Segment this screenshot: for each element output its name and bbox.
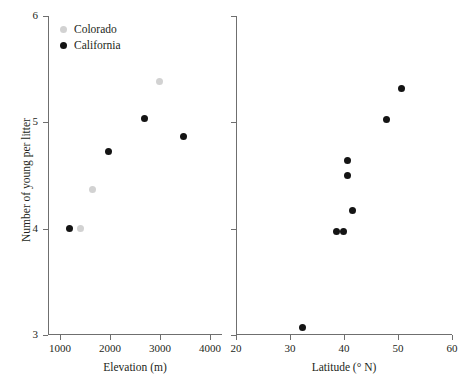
data-point-california bbox=[299, 324, 306, 331]
data-point-california bbox=[398, 85, 405, 92]
x-tick-mark bbox=[60, 335, 61, 340]
x-tick-label: 1000 bbox=[35, 343, 85, 354]
x-tick-mark bbox=[290, 335, 291, 340]
x-tick-label: 60 bbox=[427, 343, 473, 354]
figure-container: Number of young per litter 3456 10002000… bbox=[0, 0, 473, 386]
x-tick-mark bbox=[344, 335, 345, 340]
filled-circle-icon bbox=[60, 26, 67, 33]
latitude-panel: 2030405060 Latitude (° N) bbox=[236, 0, 473, 386]
elevation-panel: 3456 1000200030004000 Elevation (m) Colo… bbox=[0, 0, 236, 386]
latitude-x-axis-title: Latitude (° N) bbox=[236, 361, 452, 373]
x-tick-mark bbox=[452, 335, 453, 340]
legend-item-colorado[interactable]: Colorado bbox=[60, 20, 121, 36]
data-point-california bbox=[105, 148, 112, 155]
x-tick-mark bbox=[160, 335, 161, 340]
y-tick-label: 5 bbox=[8, 116, 38, 127]
x-tick-label: 40 bbox=[319, 343, 369, 354]
x-tick-label: 2000 bbox=[85, 343, 135, 354]
y-tick-mark bbox=[43, 229, 48, 230]
data-point-california bbox=[383, 116, 390, 123]
y-tick-mark bbox=[231, 122, 236, 123]
legend-label: California bbox=[74, 39, 121, 51]
elevation-plot-frame bbox=[48, 16, 222, 335]
data-point-colorado bbox=[77, 225, 84, 232]
data-point-california bbox=[344, 172, 351, 179]
filled-circle-icon bbox=[60, 42, 67, 49]
legend: ColoradoCalifornia bbox=[60, 20, 121, 52]
y-tick-label: 4 bbox=[8, 223, 38, 234]
y-tick-label: 3 bbox=[8, 329, 38, 340]
data-point-california bbox=[180, 133, 187, 140]
legend-label: Colorado bbox=[74, 23, 117, 35]
x-tick-label: 20 bbox=[211, 343, 261, 354]
y-tick-mark bbox=[231, 229, 236, 230]
y-tick-label: 6 bbox=[8, 10, 38, 21]
x-tick-mark bbox=[398, 335, 399, 340]
x-tick-label: 3000 bbox=[135, 343, 185, 354]
y-tick-mark bbox=[43, 16, 48, 17]
y-tick-mark bbox=[43, 335, 48, 336]
legend-item-california[interactable]: California bbox=[60, 36, 121, 52]
data-point-california bbox=[141, 115, 148, 122]
x-tick-label: 30 bbox=[265, 343, 315, 354]
elevation-x-axis-title: Elevation (m) bbox=[48, 361, 222, 373]
data-point-california bbox=[344, 157, 351, 164]
x-tick-label: 50 bbox=[373, 343, 423, 354]
y-tick-mark bbox=[231, 16, 236, 17]
data-point-colorado bbox=[89, 186, 96, 193]
x-tick-mark bbox=[236, 335, 237, 340]
x-tick-mark bbox=[110, 335, 111, 340]
y-tick-mark bbox=[43, 122, 48, 123]
x-tick-mark bbox=[210, 335, 211, 340]
